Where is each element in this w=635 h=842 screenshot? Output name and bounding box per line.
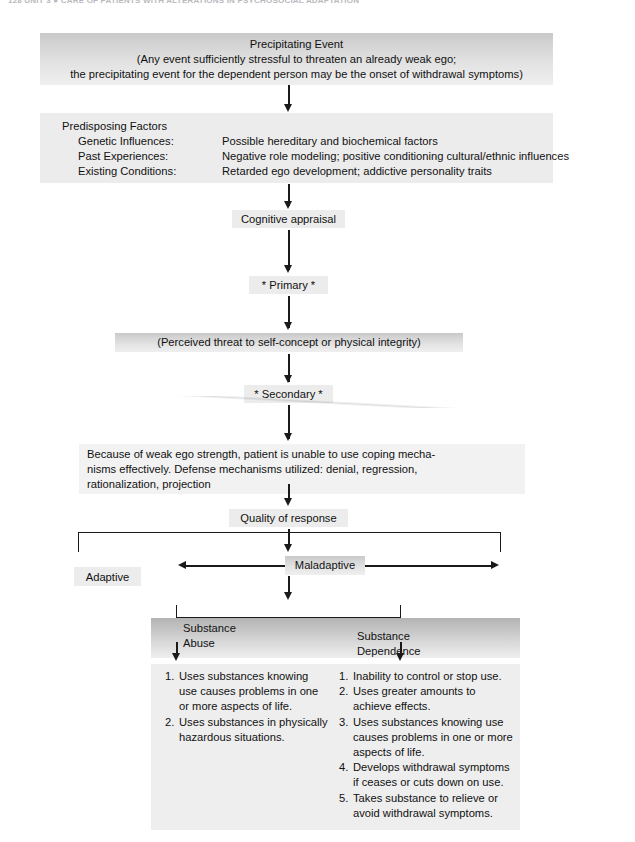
list-item: 2. Uses substances in physically hazardo… [165, 715, 335, 745]
outcome-split-bracket [176, 605, 401, 618]
predisposing-factors-box: Predisposing Factors Genetic Influences:… [40, 113, 553, 183]
arrow-threat-to-secondary [284, 375, 292, 383]
adaptive-maladaptive-bracket [78, 532, 501, 552]
secondary-appraisal-box: * Secondary * [244, 385, 333, 403]
list-item-line: or more aspects of life. [179, 700, 292, 712]
precipitating-event-line3: the precipitating event for the dependen… [40, 67, 553, 82]
perceived-threat-box: (Perceived threat to self-concept or phy… [115, 333, 463, 352]
list-item: 5. Takes substance to relieve or avoid w… [339, 791, 519, 821]
predisposing-label: Past Experiences: [78, 149, 168, 164]
coping-line-1: Because of weak ego strength, patient is… [87, 447, 517, 462]
cognitive-appraisal-label: Cognitive appraisal [241, 213, 336, 225]
precipitating-event-line2: (Any event sufficiently stressful to thr… [40, 52, 553, 67]
outcome-lists-panel: 1. Uses substances knowing use causes pr… [151, 664, 520, 830]
predisposing-value: Retarded ego development; addictive pers… [222, 164, 492, 179]
secondary-appraisal-label: * Secondary * [254, 388, 322, 400]
coping-mechanisms-box: Because of weak ego strength, patient is… [79, 444, 525, 494]
arrow-primary-to-threat [284, 322, 292, 330]
connector-appraisal-to-primary [288, 230, 290, 270]
primary-appraisal-label: * Primary * [262, 279, 315, 291]
arrow-precipitating-to-predisposing [284, 104, 292, 112]
list-item-line: Takes substance to relieve or [353, 792, 498, 804]
list-item-line: achieve effects. [353, 700, 431, 712]
perceived-threat-label: (Perceived threat to self-concept or phy… [157, 336, 421, 348]
list-item-number: 5. [339, 791, 348, 806]
list-item-line: hazardous situations. [179, 731, 285, 743]
adaptive-box: Adaptive [74, 567, 141, 586]
substance-dependence-list: 1. Inability to control or stop use. 2. … [339, 669, 519, 821]
arrow-band-to-abuse-list [172, 653, 180, 661]
arrow-predisposing-to-appraisal [284, 201, 292, 209]
list-item: 2. Uses greater amounts to achieve effec… [339, 684, 519, 714]
predisposing-factors-title: Predisposing Factors [62, 119, 167, 134]
precipitating-event-box: Precipitating Event (Any event sufficien… [40, 33, 553, 85]
branch-line-left [186, 565, 286, 567]
arrow-band-to-dependence-list [396, 653, 404, 661]
precipitating-event-title: Precipitating Event [40, 37, 553, 52]
quality-of-response-label: Quality of response [240, 512, 336, 524]
list-item-line: use causes problems in one [179, 685, 318, 697]
arrow-coping-to-quality [284, 498, 292, 506]
adaptive-label: Adaptive [86, 571, 130, 583]
cognitive-appraisal-box: Cognitive appraisal [232, 210, 345, 228]
list-item-number: 1. [339, 669, 348, 684]
arrow-to-adaptive [178, 561, 186, 569]
substance-dependence-heading-line1: Substance [357, 629, 420, 644]
list-item-line: Uses substances knowing [179, 670, 308, 682]
list-item-line: Inability to control or stop use. [353, 670, 502, 682]
list-item-number: 1. [165, 669, 174, 684]
maladaptive-label: Maladaptive [295, 559, 355, 571]
list-item-number: 4. [339, 760, 348, 775]
list-item: 3. Uses substances knowing use causes pr… [339, 715, 519, 761]
quality-of-response-box: Quality of response [229, 509, 348, 527]
list-item-number: 2. [339, 684, 348, 699]
flowchart-page: 128 UNIT 3 ● CARE OF PATIENTS WITH ALTER… [0, 0, 635, 842]
outcome-heading-band: Substance Abuse Substance Dependence [151, 618, 520, 658]
substance-abuse-heading-line1: Substance [183, 621, 236, 636]
coping-line-2: nisms effectively. Defense mechanisms ut… [87, 462, 517, 477]
substance-dependence-heading-line2: Dependence [357, 644, 420, 659]
running-header: 128 UNIT 3 ● CARE OF PATIENTS WITH ALTER… [8, 0, 628, 7]
list-item: 4. Develops withdrawal symptoms if cease… [339, 760, 519, 790]
list-item: 1. Inability to control or stop use. [339, 669, 519, 684]
coping-line-3: rationalization, projection [87, 477, 517, 492]
predisposing-label: Existing Conditions: [78, 164, 176, 179]
maladaptive-box: Maladaptive [285, 556, 365, 575]
substance-abuse-list: 1. Uses substances knowing use causes pr… [165, 669, 335, 745]
arrow-secondary-to-coping [284, 433, 292, 441]
arrow-to-maladaptive-right [491, 561, 499, 569]
list-item-line: Uses substances knowing use [353, 716, 504, 728]
substance-abuse-heading-line2: Abuse [183, 636, 236, 651]
substance-dependence-heading: Substance Dependence [357, 629, 420, 659]
arrow-appraisal-to-primary [284, 265, 292, 273]
list-item: 1. Uses substances knowing use causes pr… [165, 669, 335, 715]
list-item-line: if ceases or cuts down on use. [353, 776, 504, 788]
list-item-line: Develops withdrawal symptoms [353, 761, 510, 773]
predisposing-label: Genetic Influences: [78, 134, 174, 149]
predisposing-value: Possible hereditary and biochemical fact… [222, 134, 438, 149]
list-item-line: Uses substances in physically [179, 716, 328, 728]
list-item-line: aspects of life. [353, 746, 425, 758]
list-item-line: avoid withdrawal symptoms. [353, 807, 493, 819]
list-item-line: Uses greater amounts to [353, 685, 476, 697]
predisposing-value: Negative role modeling; positive conditi… [222, 149, 569, 164]
list-item-number: 2. [165, 715, 174, 730]
list-item-number: 3. [339, 715, 348, 730]
list-item-line: causes problems in one or more [353, 731, 513, 743]
primary-appraisal-box: * Primary * [249, 276, 328, 294]
branch-line-right [343, 565, 491, 567]
substance-abuse-heading: Substance Abuse [183, 621, 236, 651]
arrow-maladaptive-down [284, 592, 292, 600]
